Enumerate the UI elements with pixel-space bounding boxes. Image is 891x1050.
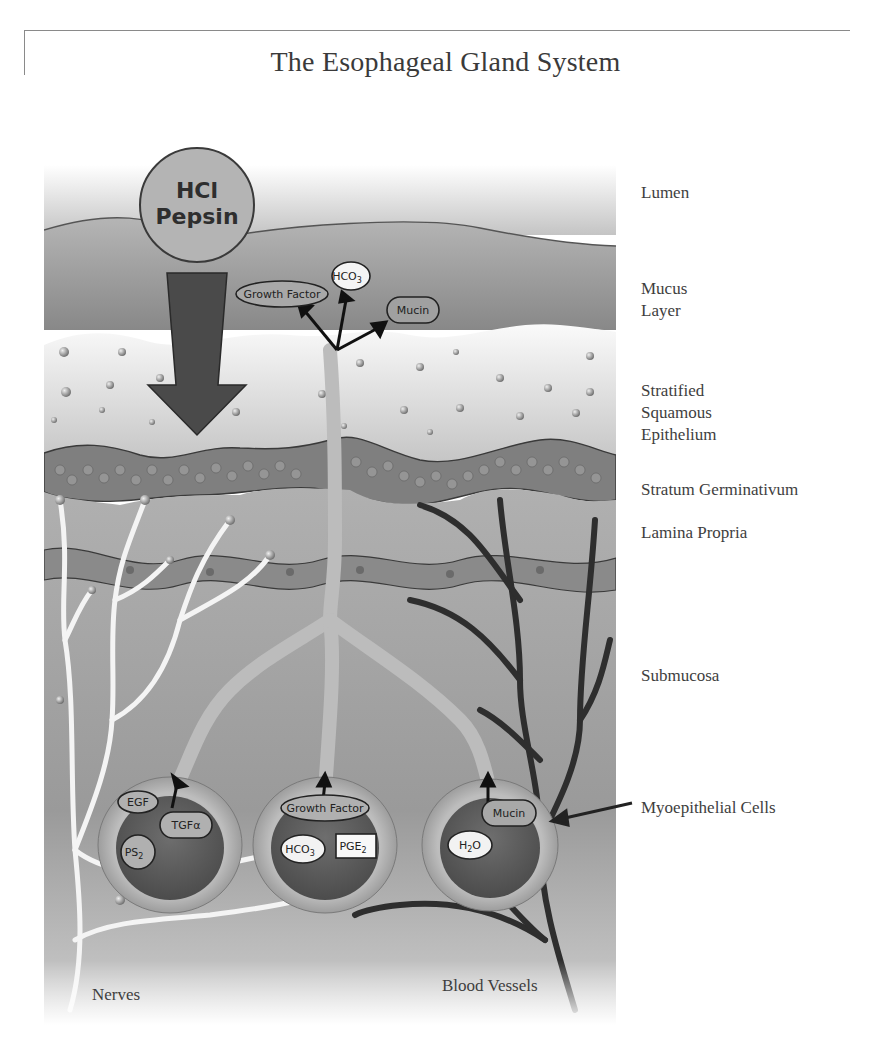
svg-text:Growth Factor: Growth Factor	[287, 802, 364, 815]
label-nerves: Nerves	[92, 985, 140, 1005]
surface-hco3-badge: HCO3	[332, 262, 370, 290]
pepsin-label: Pepsin	[155, 204, 238, 229]
gland-left-tgfa-badge: TGFα	[160, 812, 212, 838]
label-stratum-germinativum: Stratum Germinativum	[641, 479, 798, 501]
svg-text:TGFα: TGFα	[171, 819, 201, 832]
svg-text:EGF: EGF	[127, 796, 149, 809]
svg-text:Mucin: Mucin	[493, 807, 526, 820]
label-lamina-propria: Lamina Propria	[641, 522, 747, 544]
svg-text:Growth Factor: Growth Factor	[244, 288, 321, 301]
gland-right-h2o-badge: H2O	[448, 831, 492, 859]
hcl-label: HCl	[176, 178, 218, 203]
gland-left-egf-badge: EGF	[118, 791, 158, 813]
label-blood-vessels: Blood Vessels	[442, 976, 538, 996]
esophageal-gland-illustration: HCl Pepsin Growth Factor HCO3 Mucin EGF …	[0, 0, 891, 1050]
gland-center-growth-factor-badge: Growth Factor	[281, 795, 369, 821]
label-myoepithelial-cells: Myoepithelial Cells	[641, 797, 776, 819]
gland-right-mucin-badge: Mucin	[482, 800, 536, 826]
label-submucosa: Submucosa	[641, 665, 719, 687]
gland-center-hco3-badge: HCO3	[281, 835, 325, 863]
label-stratified-squamous-epithelium: Stratified Squamous Epithelium	[641, 380, 717, 446]
svg-text:Mucin: Mucin	[397, 304, 430, 317]
label-mucus-layer: Mucus Layer	[641, 278, 687, 322]
gland-center-pge2-badge: PGE2	[336, 834, 376, 858]
surface-mucin-badge: Mucin	[387, 297, 439, 323]
surface-growth-factor-badge: Growth Factor	[236, 281, 328, 307]
gland-left-ps2-badge: PS2	[121, 835, 155, 869]
label-lumen: Lumen	[641, 182, 689, 204]
